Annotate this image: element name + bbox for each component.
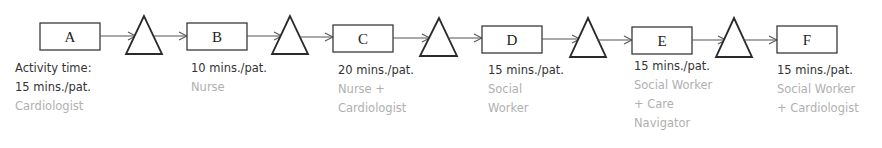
- activity-time-caption: Activity time:: [15, 59, 92, 78]
- activity-time: 15 mins./pat.: [488, 61, 564, 80]
- activity-time: 15 mins./pat.: [15, 78, 92, 97]
- activity-box-a: A: [40, 23, 100, 50]
- activity-role: Social: [488, 80, 564, 99]
- buffer-triangle-icon: [716, 18, 752, 57]
- activity-time: 15 mins./pat.: [777, 61, 859, 80]
- activity-label-b: B: [212, 29, 222, 45]
- activity-label-e: E: [657, 33, 666, 49]
- activity-box-e: E: [632, 27, 692, 54]
- buffer-triangle-icon: [570, 18, 606, 57]
- activity-c-info: 20 mins./pat. Nurse + Cardiologist: [338, 61, 414, 118]
- activity-role: Social Worker: [777, 80, 859, 99]
- activity-label-c: C: [358, 31, 368, 47]
- buffer-triangle-icon: [420, 18, 457, 56]
- activity-box-c: C: [333, 25, 393, 52]
- activity-box-d: D: [482, 26, 542, 53]
- activity-box-f: F: [777, 26, 837, 53]
- activity-role: + Care: [634, 95, 712, 114]
- activity-label-a: A: [65, 29, 76, 45]
- activity-role: Nurse: [191, 78, 267, 97]
- activity-role: Nurse +: [338, 80, 414, 99]
- buffer-triangle-icon: [272, 16, 308, 54]
- activity-role: Worker: [488, 99, 564, 118]
- activity-role: Cardiologist: [338, 99, 414, 118]
- activity-d-info: 15 mins./pat. Social Worker: [488, 61, 564, 118]
- activity-time: 10 mins./pat.: [191, 59, 267, 78]
- activity-box-b: B: [187, 23, 247, 50]
- activity-role: Social Worker: [634, 76, 712, 95]
- activity-label-d: D: [507, 32, 518, 48]
- activity-e-info: 15 mins./pat. Social Worker + Care Navig…: [634, 57, 712, 133]
- activity-a-info: Activity time: 15 mins./pat. Cardiologis…: [15, 59, 92, 116]
- activity-role: + Cardiologist: [777, 99, 859, 118]
- process-flow-diagram: A B C D E F: [0, 0, 882, 148]
- activity-time: 20 mins./pat.: [338, 61, 414, 80]
- activity-role: Cardiologist: [15, 97, 92, 116]
- activity-label-f: F: [803, 32, 811, 48]
- activity-f-info: 15 mins./pat. Social Worker + Cardiologi…: [777, 61, 859, 118]
- buffer-triangle-icon: [126, 16, 162, 54]
- activity-role: Navigator: [634, 114, 712, 133]
- activity-b-info: 10 mins./pat. Nurse: [191, 59, 267, 97]
- activity-time: 15 mins./pat.: [634, 57, 712, 76]
